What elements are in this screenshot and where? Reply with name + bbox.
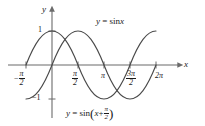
fraction-pi-over-2: π2: [72, 70, 78, 87]
x-tick-label-pi-over-2: π2: [72, 70, 78, 87]
eq2-paren-close: ): [109, 106, 113, 121]
x-axis-label: x: [184, 60, 188, 69]
y-tick-label-negative-one: −1: [32, 94, 41, 102]
eq-function: sin: [110, 16, 121, 26]
equation-label-sin-x: y = sinx: [96, 17, 124, 26]
x-tick-label-2pi: 2π: [155, 72, 163, 80]
equation-label-sin-x-plus-pi-over-2: y = sin(x+π2): [66, 106, 113, 121]
eq-argument: x: [120, 16, 124, 26]
x-tick-label-pi: π: [101, 72, 105, 80]
x-tick-label-3pi-over-2: 3π2: [126, 70, 136, 87]
fraction-3pi-over-2: 3π2: [126, 70, 136, 87]
y-axis-label: y: [42, 5, 46, 14]
x-tick-label-neg-pi-over-2: −π2: [14, 70, 25, 87]
y-tick-label-one: 1: [38, 26, 42, 34]
eq2-function: sin: [80, 108, 91, 118]
fraction-pi-over-2: π2: [19, 70, 25, 87]
